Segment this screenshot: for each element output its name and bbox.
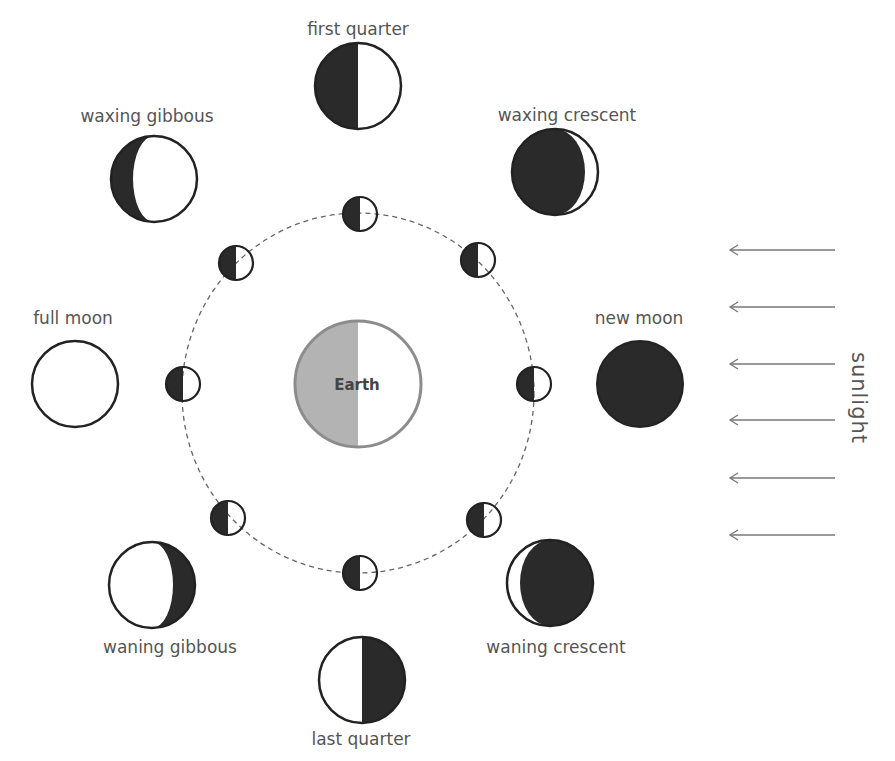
phase-label-first-quarter: first quarter [307, 19, 409, 39]
waxing-crescent-moon-icon [512, 129, 598, 215]
earth: Earth [295, 321, 421, 447]
orbit-moon-bottom-right [467, 503, 501, 537]
phase-label-waxing-gibbous: waxing gibbous [80, 106, 213, 126]
phase-new-moon: new moon [595, 308, 684, 427]
first-quarter-moon-icon [315, 43, 401, 129]
sunlight-arrow-icon [730, 302, 835, 312]
moon-phases-diagram: Earth first quarter [0, 0, 895, 761]
sunlight-arrow-icon [730, 530, 835, 540]
sunlight-arrow-icon [730, 415, 835, 425]
waning-gibbous-moon-icon [109, 542, 195, 628]
full-moon-icon [32, 341, 118, 427]
sunlight-arrow-icon [730, 473, 835, 483]
sunlight-arrow-icon [730, 245, 835, 255]
sunlight-label: sunlight [847, 352, 871, 444]
sunlight-arrows [730, 245, 835, 540]
phase-label-waning-crescent: waning crescent [486, 637, 626, 657]
phase-first-quarter: first quarter [307, 19, 409, 129]
phase-waxing-gibbous: waxing gibbous [80, 106, 213, 222]
orbit-moon-left [166, 367, 200, 401]
orbit-moon-top-right [461, 243, 495, 277]
new-moon-icon [597, 341, 683, 427]
phase-waning-gibbous: waning gibbous [103, 542, 237, 657]
sunlight-arrow-icon [730, 359, 835, 369]
orbit-moon-top-left [219, 246, 253, 280]
orbit-moon-bottom-left [211, 501, 245, 535]
waxing-gibbous-moon-icon [111, 136, 197, 222]
orbit-moon-right [517, 367, 551, 401]
phase-label-last-quarter: last quarter [311, 729, 410, 749]
phase-label-waxing-crescent: waxing crescent [498, 105, 637, 125]
earth-label: Earth [334, 376, 380, 394]
phase-label-new-moon: new moon [595, 308, 684, 328]
phase-full-moon: full moon [32, 308, 118, 427]
orbit-moon-top [343, 197, 377, 231]
phase-last-quarter: last quarter [311, 637, 410, 749]
phase-label-full-moon: full moon [33, 308, 113, 328]
phase-waxing-crescent: waxing crescent [498, 105, 637, 215]
phase-label-waning-gibbous: waning gibbous [103, 637, 237, 657]
last-quarter-moon-icon [319, 637, 405, 723]
waning-crescent-moon-icon [507, 540, 593, 626]
phase-waning-crescent: waning crescent [486, 540, 626, 657]
